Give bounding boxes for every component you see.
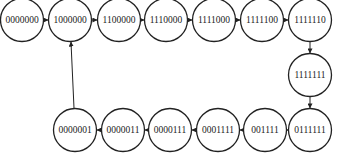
- state-label: 0111111: [294, 125, 326, 135]
- state-node: 001111: [244, 109, 287, 152]
- state-node: 1111110: [289, 0, 332, 42]
- state-node: 1111000: [193, 0, 236, 42]
- state-label: 1000000: [53, 15, 87, 25]
- state-node: 1110000: [145, 0, 188, 42]
- state-label: 1111000: [198, 15, 230, 25]
- state-node: 0111111: [289, 109, 332, 152]
- state-label: 1110000: [150, 15, 183, 25]
- state-label: 0001111: [202, 125, 234, 135]
- state-node: 1111100: [241, 0, 284, 42]
- state-label: 0000000: [5, 15, 39, 25]
- state-label: 001111: [251, 125, 279, 135]
- transition-arrow: [71, 42, 74, 109]
- state-node: 0000000: [1, 0, 44, 42]
- state-label: 1111110: [294, 15, 326, 25]
- state-node: 1111111: [289, 54, 332, 97]
- state-label: 1111100: [246, 15, 278, 25]
- state-label: 0000111: [154, 125, 187, 135]
- state-node: 0000011: [102, 109, 145, 152]
- state-node: 0000111: [149, 109, 192, 152]
- state-node: 0000001: [54, 109, 97, 152]
- state-label: 0000001: [58, 125, 92, 135]
- state-node: 1000000: [49, 0, 92, 42]
- state-label: 0000011: [107, 125, 140, 135]
- state-node: 1100000: [98, 0, 141, 42]
- state-nodes: 0000000100000011000001110000111100011111…: [1, 0, 332, 152]
- state-diagram: 0000000100000011000001110000111100011111…: [0, 0, 342, 153]
- state-label: 1111111: [294, 70, 325, 80]
- state-label: 1100000: [103, 15, 136, 25]
- state-node: 0001111: [197, 109, 240, 152]
